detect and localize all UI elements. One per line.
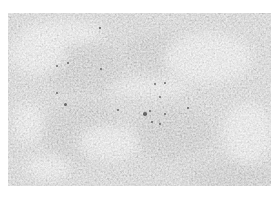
dark-speck [159, 96, 161, 98]
dark-speck [164, 82, 166, 84]
dark-speck [159, 123, 161, 125]
dark-speck [164, 113, 166, 115]
dark-speck [117, 109, 119, 111]
dark-speck [143, 112, 147, 116]
dark-speck [187, 107, 189, 109]
dark-speck [100, 68, 102, 70]
image-canvas [0, 0, 279, 197]
texture-noise-layer [8, 13, 271, 186]
dark-speck [64, 103, 67, 106]
texture-photograph [8, 13, 271, 186]
dark-speck [67, 62, 69, 64]
dark-speck [99, 27, 101, 29]
